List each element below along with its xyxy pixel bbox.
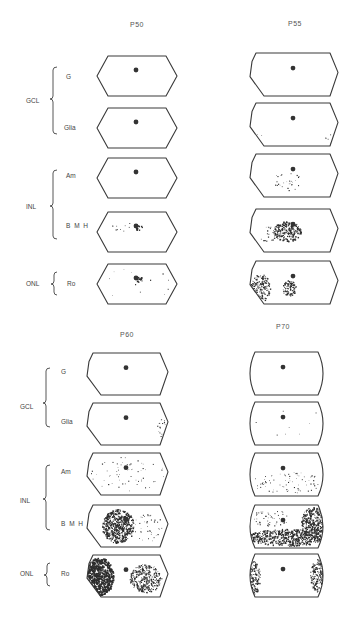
retina-map [249, 505, 326, 548]
optic-disc-marker [124, 567, 129, 572]
retina-outline [250, 554, 323, 597]
brace-onl [51, 272, 57, 295]
optic-disc-marker [134, 224, 139, 229]
retina-map [250, 53, 338, 96]
retina-map [250, 103, 338, 146]
optic-disc-marker [134, 276, 139, 281]
optic-disc-marker [291, 116, 296, 121]
optic-disc-marker [124, 465, 129, 470]
optic-disc-marker [134, 170, 139, 175]
brace-onl [44, 563, 50, 586]
optic-disc-marker [291, 222, 296, 227]
retina-maps [85, 53, 338, 597]
retina-outline [250, 103, 338, 146]
optic-disc-marker [281, 415, 286, 420]
retina-outline [87, 403, 168, 445]
figure: P50 P55 P60 P70 GCL G Glia INL Am B M H … [0, 0, 364, 617]
optic-disc-marker [291, 167, 296, 172]
retina-map [87, 403, 168, 445]
optic-disc-marker [134, 120, 139, 125]
retina-map [97, 56, 177, 96]
retina-outline [87, 353, 168, 395]
retina-outline [250, 352, 323, 395]
brace-inl [43, 465, 50, 530]
retina-map [250, 261, 338, 304]
brace-gcl [50, 67, 57, 134]
retina-outline [87, 453, 168, 495]
retina-map [250, 352, 323, 395]
retina-outline [97, 108, 177, 148]
retina-outline [97, 56, 177, 96]
optic-disc-marker [134, 68, 139, 73]
optic-disc-marker [281, 365, 286, 370]
retina-map [87, 353, 168, 395]
retina-map [97, 264, 177, 304]
retina-map [97, 108, 177, 148]
optic-disc-marker [281, 567, 286, 572]
brackets [0, 0, 364, 617]
retina-map [85, 555, 168, 597]
retina-outline [97, 158, 177, 198]
optic-disc-marker [281, 518, 286, 523]
optic-disc-marker [124, 365, 129, 370]
retina-map [97, 158, 177, 198]
optic-disc-marker [291, 66, 296, 71]
retina-outline [250, 209, 338, 252]
retina-outline [97, 264, 177, 304]
retina-map [87, 453, 168, 495]
retina-map [250, 453, 324, 496]
optic-disc-marker [124, 415, 129, 420]
retina-outline [250, 154, 338, 197]
optic-disc-marker [291, 274, 296, 279]
brace-inl [50, 170, 57, 239]
retina-map [250, 402, 323, 445]
retina-outline [97, 212, 177, 252]
optic-disc-marker [124, 517, 129, 522]
optic-disc-marker [281, 466, 286, 471]
brace-gcl [43, 368, 50, 427]
retina-map [250, 154, 338, 197]
retina-map [87, 505, 168, 547]
retina-map [97, 212, 177, 252]
retina-outline [250, 402, 323, 445]
retina-outline [250, 53, 338, 96]
retina-map [250, 209, 338, 252]
retina-map [246, 554, 327, 597]
